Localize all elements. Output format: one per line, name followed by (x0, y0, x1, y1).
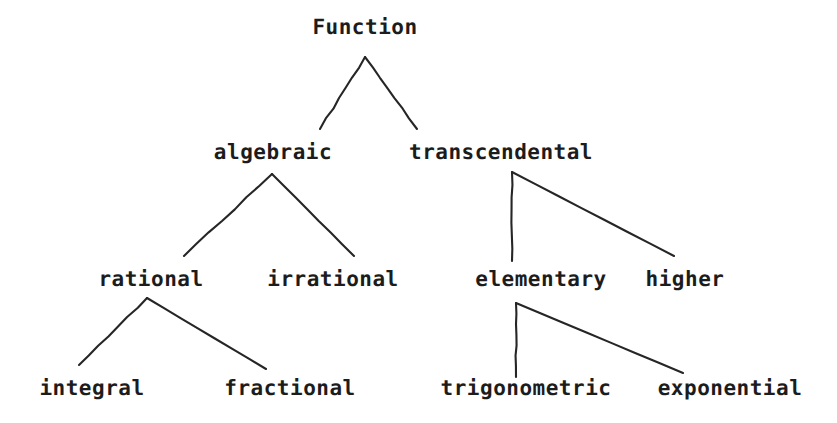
edge-rational-to-integral (79, 298, 147, 365)
node-transcendental: transcendental (409, 140, 593, 164)
node-exponential: exponential (658, 376, 803, 400)
edge-layer (0, 0, 837, 423)
edge-algebraic-to-rational (184, 174, 272, 256)
node-irrational: irrational (267, 267, 398, 291)
node-elementary: elementary (475, 267, 606, 291)
node-trigonometric: trigonometric (441, 376, 612, 400)
diagram-canvas: Functionalgebraictranscendentalrationali… (0, 0, 837, 423)
edge-rational-to-fractional (147, 298, 266, 369)
node-fractional: fractional (224, 376, 355, 400)
node-higher: higher (646, 267, 725, 291)
node-rational: rational (98, 267, 203, 291)
node-function: Function (312, 15, 417, 39)
edge-function-to-algebraic (320, 57, 365, 129)
edge-transcendental-to-elementary (511, 172, 512, 261)
node-algebraic: algebraic (214, 140, 332, 164)
edge-elementary-to-trigonometric (516, 303, 517, 377)
edge-function-to-transcendental (365, 57, 417, 129)
node-integral: integral (39, 376, 144, 400)
edge-elementary-to-exponential (516, 303, 683, 373)
edge-transcendental-to-higher (512, 172, 674, 256)
edge-algebraic-to-irrational (272, 174, 354, 256)
